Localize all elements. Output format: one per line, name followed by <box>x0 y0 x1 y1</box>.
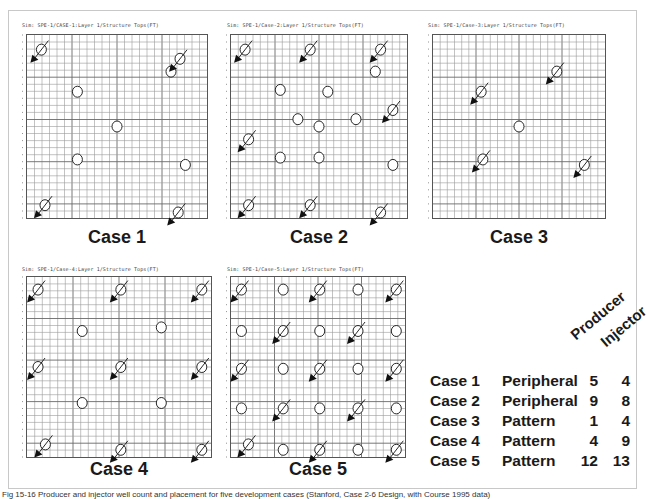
producer-well-icon <box>514 121 524 132</box>
summary-table: Producer Injector Case 1 Peripheral 5 4 … <box>428 300 638 475</box>
cell-injector: 9 <box>606 432 630 450</box>
cell-pattern: Pattern <box>502 452 555 470</box>
well-map <box>231 277 405 457</box>
producer-well-icon <box>314 121 324 132</box>
producer-well-icon <box>72 154 82 165</box>
cell-injector: 4 <box>606 412 630 430</box>
injector-well-icon <box>299 41 317 63</box>
cell-pattern: Peripheral <box>502 392 578 410</box>
producer-well-icon <box>353 284 363 295</box>
producer-well-icon <box>353 444 363 455</box>
sim-title: Sim: SPE-1/Case-4:Layer 1/Structure Tops… <box>22 266 159 272</box>
figure-caption: Fig 15-16 Producer and injector well cou… <box>2 490 490 499</box>
producer-well-icon <box>314 152 324 163</box>
producer-well-icon <box>275 84 285 95</box>
injector-well-icon <box>30 41 48 63</box>
producer-well-icon <box>278 363 288 374</box>
producer-well-icon <box>315 403 325 414</box>
producer-well-icon <box>278 444 288 455</box>
table-row: Case 5 Pattern 12 13 <box>428 452 638 472</box>
case-label: Case 3 <box>432 227 606 248</box>
table-row: Case 3 Pattern 1 4 <box>428 412 638 432</box>
producer-well-icon <box>236 403 246 414</box>
producer-well-icon <box>351 114 361 125</box>
case-label: Case 4 <box>26 459 212 480</box>
producer-well-icon <box>275 152 285 163</box>
cell-producer: 12 <box>572 452 598 470</box>
injector-well-icon <box>234 41 252 63</box>
case-label: Case 1 <box>26 227 208 248</box>
cell-injector: 4 <box>606 372 630 390</box>
well-map <box>231 35 407 218</box>
cell-injector: 13 <box>606 452 630 470</box>
cell-pattern: Peripheral <box>502 372 578 390</box>
well-map <box>27 277 211 457</box>
case-label: Case 2 <box>230 227 408 248</box>
well-map <box>27 35 207 218</box>
cell-case: Case 3 <box>430 412 480 430</box>
well-map-grid <box>230 276 406 458</box>
injector-well-icon <box>347 399 365 421</box>
cell-producer: 1 <box>572 412 598 430</box>
cell-case: Case 2 <box>430 392 480 410</box>
sim-title: Sim: SPE-1/Case-5:Layer 1/Structure Tops… <box>227 266 364 272</box>
cell-producer: 5 <box>572 372 598 390</box>
producer-well-icon <box>388 159 398 170</box>
well-map-grid <box>26 276 212 458</box>
producer-well-icon <box>293 114 303 125</box>
cell-producer: 4 <box>572 432 598 450</box>
case-label: Case 5 <box>230 459 406 480</box>
well-map-grid <box>432 34 606 219</box>
producer-well-icon <box>315 326 325 337</box>
producer-well-icon <box>370 66 380 77</box>
well-map <box>433 35 605 218</box>
producer-well-icon <box>236 326 246 337</box>
producer-well-icon <box>156 398 166 409</box>
injector-well-icon <box>470 83 488 105</box>
cell-injector: 8 <box>606 392 630 410</box>
producer-well-icon <box>77 398 87 409</box>
table-row: Case 4 Pattern 4 9 <box>428 432 638 452</box>
cell-producer: 9 <box>572 392 598 410</box>
producer-well-icon <box>156 322 166 333</box>
producer-well-icon <box>278 284 288 295</box>
producer-well-icon <box>77 326 87 337</box>
well-map-grid <box>26 34 208 219</box>
producer-well-icon <box>353 363 363 374</box>
table-row: Case 2 Peripheral 9 8 <box>428 392 638 412</box>
producer-well-icon <box>323 86 333 97</box>
sim-title: Sim: SPE-1/Case-2:Layer 1/Structure Tops… <box>227 22 364 28</box>
cell-case: Case 4 <box>430 432 480 450</box>
producer-well-icon <box>112 121 122 132</box>
injector-well-icon <box>299 196 317 218</box>
injector-well-icon <box>385 360 403 382</box>
sim-title: Sim: SPE-1/CASE-1:Layer 1/Structure Tops… <box>22 22 159 28</box>
cell-case: Case 5 <box>430 452 480 470</box>
table-row: Case 1 Peripheral 5 4 <box>428 372 638 392</box>
cell-case: Case 1 <box>430 372 480 390</box>
producer-well-icon <box>391 403 401 414</box>
injector-well-icon <box>191 358 209 380</box>
sim-title: Sim: SPE-1/Case-3:Layer 1/Structure Tops… <box>428 22 565 28</box>
cell-pattern: Pattern <box>502 412 555 430</box>
producer-well-icon <box>72 86 82 97</box>
producer-well-icon <box>391 326 401 337</box>
producer-well-icon <box>180 159 190 170</box>
well-map-grid <box>230 34 408 219</box>
cell-pattern: Pattern <box>502 432 555 450</box>
